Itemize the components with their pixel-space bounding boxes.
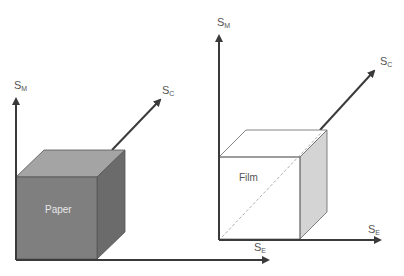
paper-sm-label: SM	[14, 79, 27, 92]
paper-box-label: Paper	[45, 204, 72, 215]
paper-sc-label: SC	[162, 84, 174, 97]
film-box-label: Film	[239, 172, 258, 183]
film-diagram	[219, 36, 380, 240]
diagram-canvas: SM SC SE Paper SM SC SE Film	[0, 0, 404, 276]
axes-and-boxes	[0, 0, 404, 276]
paper-diagram	[16, 99, 268, 260]
film-se-label: SE	[368, 223, 380, 236]
film-sm-label: SM	[217, 16, 230, 29]
film-sc-label: SC	[380, 55, 392, 68]
paper-sc-axis	[112, 100, 160, 150]
paper-se-label: SE	[254, 241, 266, 254]
paper-box-front	[16, 177, 97, 259]
film-box-front	[219, 157, 300, 239]
film-sc-axis	[320, 71, 374, 130]
